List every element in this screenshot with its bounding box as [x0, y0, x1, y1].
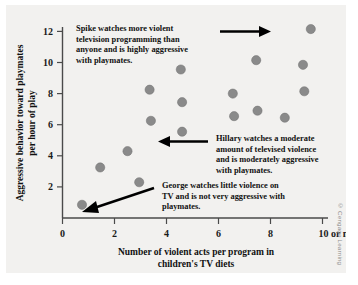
george-arrow — [82, 188, 154, 213]
data-point — [146, 116, 155, 125]
data-point — [123, 147, 132, 156]
x-tick-label: 0 — [60, 228, 65, 239]
x-axis-title-line2: children's TV diets — [158, 259, 235, 269]
annotation-hillary-line4: with playmates. — [216, 166, 272, 175]
y-tick-group: 24681012 — [43, 26, 63, 193]
annotation-hillary-line1: Hillary watches a moderate — [216, 134, 315, 143]
data-point — [252, 56, 261, 65]
data-point — [298, 60, 307, 69]
data-point — [145, 85, 154, 94]
data-point — [178, 98, 187, 107]
annotation-spike-line2: television programming than — [76, 35, 180, 44]
y-tick-label: 10 — [43, 57, 53, 68]
annotation-george-line3: playmates. — [162, 202, 200, 211]
spike-arrow — [220, 26, 271, 37]
data-point — [176, 65, 185, 74]
x-tick-label: 8 — [268, 228, 273, 239]
data-point-hillary — [178, 127, 187, 136]
x-tick-label: 2 — [112, 228, 117, 239]
data-point — [253, 106, 262, 115]
y-axis-title-line2: per hour of play — [27, 90, 37, 156]
x-tick-label: 4 — [164, 228, 169, 239]
data-point — [300, 87, 309, 96]
annotation-hillary-line2: amount of televised violence — [216, 145, 317, 154]
x-tick-label: 6 — [216, 228, 221, 239]
hillary-arrow — [158, 136, 208, 147]
y-tick-label: 12 — [43, 26, 53, 37]
x-tick-group: 0246810 or more — [60, 218, 346, 239]
y-tick-label: 2 — [48, 181, 53, 192]
data-point — [228, 89, 237, 98]
annotation-hillary-line3: and is moderately aggressive — [216, 155, 319, 164]
annotation-george-line2: TV and is not very aggressive with — [162, 192, 285, 201]
annotation-spike-line4: with playmates. — [76, 56, 132, 65]
data-point — [96, 163, 105, 172]
data-point — [135, 178, 144, 187]
data-point — [280, 113, 289, 122]
data-point-george — [77, 200, 86, 209]
annotation-spike-line3: anyone and is highly aggressive — [76, 45, 188, 54]
annotation-george-line1: George watches little violence on — [162, 181, 279, 190]
copyright-credit: © Cengage Learning — [337, 202, 344, 265]
data-point — [230, 112, 239, 121]
y-tick-label: 6 — [48, 119, 53, 130]
annotation-spike-line1: Spike watches more violent — [76, 24, 174, 33]
x-axis-title-line1: Number of violent acts per program in — [118, 247, 275, 257]
y-tick-label: 8 — [48, 88, 53, 99]
figure-panel: 24681012 0246810 or more Number of viole… — [6, 5, 346, 273]
scatter-plot: 24681012 0246810 or more Number of viole… — [6, 5, 346, 273]
y-axis-title-line1: Aggressive behavior toward playmates — [15, 44, 25, 201]
data-point-spike — [306, 24, 315, 33]
y-tick-label: 4 — [48, 150, 53, 161]
